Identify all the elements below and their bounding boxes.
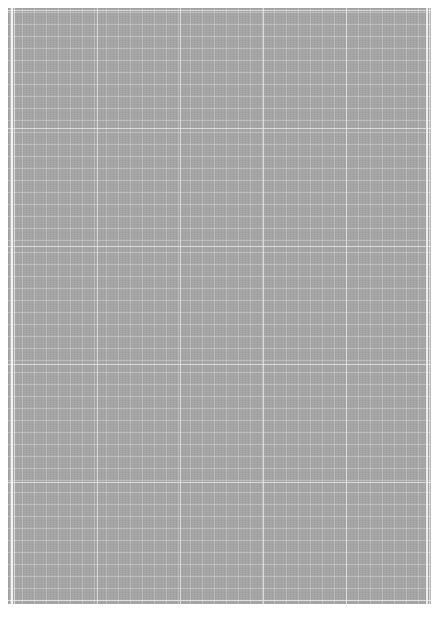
graph-paper-sheet (8, 8, 431, 604)
left-margin-line (11, 8, 13, 604)
right-margin-line (426, 8, 428, 604)
page (0, 0, 439, 617)
